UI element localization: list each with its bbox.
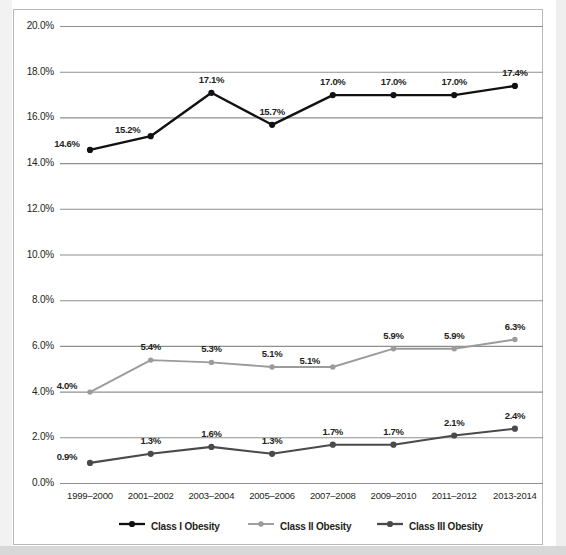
data-point-marker	[148, 451, 154, 457]
y-tick-label: 10.0%	[0, 249, 54, 260]
data-point-marker	[512, 83, 518, 89]
y-tick-label: 16.0%	[0, 111, 54, 122]
data-point-label: 1.6%	[189, 428, 233, 439]
data-point-marker	[209, 360, 214, 365]
data-point-label: 15.2%	[106, 124, 150, 135]
data-point-label: 1.7%	[311, 426, 355, 437]
data-point-label: 1.3%	[250, 435, 294, 446]
x-tick-label: 2009–2010	[359, 490, 429, 501]
y-tick-label: 20.0%	[0, 20, 54, 31]
data-point-label: 0.9%	[45, 451, 89, 462]
data-point-label: 5.3%	[189, 343, 233, 354]
data-point-marker	[391, 346, 396, 351]
x-tick-label: 2001–2002	[116, 490, 186, 501]
data-point-marker	[390, 442, 396, 448]
x-tick-label: 2003–2004	[176, 490, 246, 501]
data-point-label: 15.7%	[250, 106, 294, 117]
data-point-marker	[512, 337, 517, 342]
legend-item-label: Class I Obesity	[151, 521, 220, 532]
data-point-marker	[269, 122, 275, 128]
data-point-label: 5.4%	[129, 341, 173, 352]
data-point-label: 17.1%	[189, 74, 233, 85]
data-point-label: 2.1%	[432, 417, 476, 428]
data-point-marker	[330, 92, 336, 98]
y-tick-label: 6.0%	[0, 340, 54, 351]
data-point-label: 6.3%	[493, 321, 537, 332]
data-point-marker	[269, 364, 274, 369]
data-point-marker	[330, 442, 336, 448]
y-tick-label: 12.0%	[0, 203, 54, 214]
data-point-marker	[208, 90, 214, 96]
legend-item-label: Class III Obesity	[409, 521, 483, 532]
data-point-label: 5.9%	[432, 330, 476, 341]
data-point-marker	[451, 432, 457, 438]
data-point-label: 2.4%	[493, 410, 537, 421]
x-tick-label: 2011–2012	[419, 490, 489, 501]
data-point-label: 4.0%	[45, 380, 89, 391]
y-tick-label: 18.0%	[0, 66, 54, 77]
data-point-label: 1.7%	[372, 426, 416, 437]
data-point-marker	[390, 92, 396, 98]
legend-item-3: Class III Obesity	[409, 516, 483, 534]
data-point-marker	[452, 346, 457, 351]
legend-swatch-marker	[387, 521, 393, 527]
data-point-label: 5.9%	[372, 330, 416, 341]
data-point-marker	[148, 357, 153, 362]
data-point-label: 14.6%	[45, 138, 89, 149]
data-point-label: 17.0%	[432, 76, 476, 87]
data-point-marker	[512, 426, 518, 432]
legend-item-label: Class II Obesity	[280, 521, 351, 532]
x-tick-label: 1999–2000	[55, 490, 125, 501]
line-chart-plot	[0, 0, 566, 555]
y-tick-label: 0.0%	[0, 477, 54, 488]
data-point-label: 17.0%	[372, 76, 416, 87]
legend-swatch-marker	[258, 521, 263, 526]
data-point-label: 1.3%	[129, 435, 173, 446]
x-tick-label: 2007–2008	[298, 490, 368, 501]
x-tick-label: 2005–2006	[237, 490, 307, 501]
data-point-marker	[451, 92, 457, 98]
data-point-label: 17.4%	[493, 67, 537, 78]
data-point-marker	[269, 451, 275, 457]
chart-figure: 20.0%18.0%16.0%14.0%12.0%10.0%8.0%6.0%4.…	[0, 0, 566, 555]
y-tick-label: 8.0%	[0, 294, 54, 305]
data-point-label: 5.1%	[288, 355, 332, 366]
y-tick-label: 14.0%	[0, 157, 54, 168]
chart-legend: Class I ObesityClass II ObesityClass III…	[13, 513, 543, 537]
y-tick-label: 2.0%	[0, 431, 54, 442]
legend-swatch-marker	[129, 521, 135, 527]
legend-item-1: Class I Obesity	[151, 516, 220, 534]
legend-item-2: Class II Obesity	[280, 516, 351, 534]
x-tick-label: 2013-2014	[480, 490, 550, 501]
data-point-marker	[208, 444, 214, 450]
data-point-label: 17.0%	[311, 76, 355, 87]
